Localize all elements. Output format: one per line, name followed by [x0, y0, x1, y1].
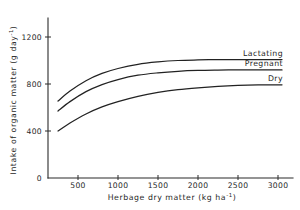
- x-tick-label-2000: 2000: [188, 181, 209, 190]
- x-axis-title-text: Herbage dry matter (kg ha: [108, 193, 227, 202]
- figure-container: 04008001200 50010001500200025003000 Lact…: [0, 0, 300, 210]
- y-axis-tick-labels: 04008001200: [21, 33, 42, 183]
- y-tick-label-400: 400: [27, 127, 42, 136]
- x-axis-title: Herbage dry matter (kg ha-1): [108, 192, 237, 202]
- y-axis-title-text: Intake of organic matter (g day: [9, 36, 18, 175]
- y-tick-label-0: 0: [37, 174, 42, 183]
- series-labels: LactatingPregnantDry: [243, 49, 283, 83]
- x-tick-label-1500: 1500: [148, 181, 169, 190]
- line-chart: 04008001200 50010001500200025003000 Lact…: [0, 0, 300, 210]
- curve-dry: [58, 85, 282, 131]
- y-tick-label-800: 800: [27, 80, 42, 89]
- x-axis-tick-labels: 50010001500200025003000: [70, 181, 288, 190]
- x-tick-label-3000: 3000: [268, 181, 289, 190]
- x-tick-label-1000: 1000: [108, 181, 129, 190]
- x-axis-title-close: ): [233, 193, 237, 202]
- y-tick-label-1200: 1200: [21, 33, 42, 42]
- y-axis-title-close: ): [9, 26, 18, 30]
- series-label-dry: Dry: [268, 74, 283, 83]
- x-tick-label-500: 500: [70, 181, 85, 190]
- data-curves: [58, 60, 282, 131]
- series-label-pregnant: Pregnant: [245, 59, 283, 68]
- y-axis-title: Intake of organic matter (g day-1): [8, 26, 18, 175]
- series-label-lactating: Lactating: [243, 49, 283, 58]
- x-tick-label-2500: 2500: [228, 181, 249, 190]
